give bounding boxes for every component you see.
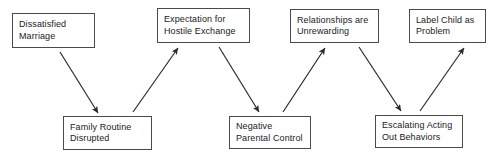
node-label-line2: Parental Control (236, 133, 310, 145)
node-label-line1: Escalating Acting (382, 120, 462, 132)
node-relationships-unrewarding[interactable]: Relationships are Unrewarding (290, 9, 379, 43)
node-family-routine-disrupted[interactable]: Family Routine Disrupted (63, 116, 152, 150)
node-expectation-hostile-exchange[interactable]: Expectation for Hostile Exchange (157, 8, 250, 43)
node-label-line2: Hostile Exchange (164, 26, 249, 38)
node-escalating-acting-out[interactable]: Escalating Acting Out Behaviors (375, 115, 463, 148)
node-label-line2: Problem (416, 26, 485, 38)
node-dissatisfied-marriage[interactable]: Dissatisfied Marriage (12, 13, 95, 48)
node-label-line1: Family Routine (70, 122, 151, 134)
node-label-line1: Dissatisfied (19, 19, 94, 31)
node-label-line2: Disrupted (70, 133, 151, 145)
arrow-escalating-to-label (420, 48, 464, 111)
node-negative-parental-control[interactable]: Negative Parental Control (229, 116, 311, 149)
node-label-line1: Label Child as (416, 15, 485, 27)
arrow-marriage-to-routine (60, 52, 98, 113)
node-label-line1: Negative (236, 121, 310, 133)
node-label-child-as-problem[interactable]: Label Child as Problem (409, 9, 486, 43)
node-label-line1: Relationships are (297, 15, 378, 27)
node-label-line2: Unrewarding (297, 26, 378, 38)
arrow-relationships-to-escalating (359, 47, 401, 111)
node-label-line2: Out Behaviors (382, 132, 462, 144)
arrow-expectation-to-control (219, 47, 259, 112)
node-label-line1: Expectation for (164, 14, 249, 26)
node-label-line2: Marriage (19, 31, 94, 43)
flow-diagram: Dissatisfied Marriage Expectation for Ho… (0, 0, 493, 159)
arrow-routine-to-expectation (133, 48, 178, 112)
arrow-control-to-relationships (283, 48, 325, 112)
